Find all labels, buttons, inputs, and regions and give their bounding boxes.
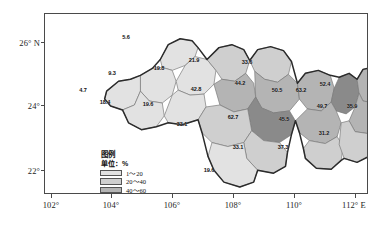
x-axis-tick-108e: 108°: [211, 200, 255, 210]
region-value-r9: 42.8: [191, 86, 202, 92]
region-value-r20: 37.3: [278, 144, 289, 150]
legend-label-2: 20～40: [126, 178, 146, 185]
region-value-r16: 62.7: [228, 114, 239, 120]
legend-entry-3: 40～60: [100, 186, 168, 194]
legend-swatch-3: [100, 187, 122, 194]
region-value-r6: 19.6: [143, 101, 154, 107]
region-value-r2: 9.3: [108, 70, 115, 76]
legend-title: 图例: [101, 150, 168, 159]
x-axis-tick-mark-108e: [233, 194, 234, 198]
x-axis-tick-102e: 102°: [29, 200, 73, 210]
region-value-r21: 31.2: [319, 130, 330, 136]
region-value-r5: 19.8: [154, 65, 165, 71]
map-plot-area: 5.69.34.718.419.819.621.933.642.844.250.…: [44, 13, 368, 194]
region-value-r11: 50.5: [272, 87, 283, 93]
region-value-r18: 45.5: [279, 116, 290, 122]
x-axis-tick-mark-110e: [294, 194, 295, 198]
region-value-r14: 49.7: [317, 103, 328, 109]
x-axis-tick-112e: 112° E: [329, 200, 379, 210]
legend-entry-1: 1～20: [100, 169, 168, 177]
legend-label-3: 40～60: [126, 187, 146, 194]
legend-swatch-1: [100, 170, 122, 177]
map-legend: 图例 单位：% 1～2020～4040～6060～100: [97, 148, 171, 194]
y-axis-tick-22: 22°: [0, 166, 40, 176]
region-value-r15: 35.9: [347, 103, 358, 109]
region-value-r4: 18.4: [100, 99, 111, 105]
region-value-r13: 52.4: [320, 81, 331, 87]
legend-entries: 1～2020～4040～6060～100: [100, 169, 168, 194]
legend-entry-2: 20～40: [100, 178, 168, 186]
region-value-r8: 33.6: [242, 59, 253, 65]
x-axis-tick-mark-106e: [172, 194, 173, 198]
legend-unit-label: 单位：%: [101, 159, 168, 168]
choropleth-map-figure: 26° N 24° 22° 102° 104° 106° 108° 110° 1…: [0, 0, 388, 229]
region-value-r12: 63.2: [296, 87, 307, 93]
region-value-r7: 21.9: [189, 57, 200, 63]
legend-swatch-2: [100, 178, 122, 185]
y-axis-tick-26n: 26° N: [0, 38, 40, 48]
region-value-r19: 33.1: [233, 144, 244, 150]
region-value-r1: 5.6: [122, 34, 129, 40]
x-axis-tick-mark-112e: [355, 194, 356, 198]
x-axis-tick-110e: 110°: [272, 200, 316, 210]
region-value-r3: 4.7: [79, 87, 86, 93]
region-value-r22: 19.6: [204, 167, 215, 173]
x-axis-tick-104e: 104°: [89, 200, 133, 210]
x-axis-tick-106e: 106°: [150, 200, 194, 210]
map-region-r17[interactable]: [198, 105, 252, 147]
region-value-r10: 44.2: [235, 80, 246, 86]
y-axis-tick-24: 24°: [0, 101, 40, 111]
x-axis-tick-mark-102e: [51, 194, 52, 198]
region-value-r17: 33.1: [177, 121, 188, 127]
legend-label-1: 1～20: [126, 170, 143, 177]
x-axis-tick-mark-104e: [111, 194, 112, 198]
